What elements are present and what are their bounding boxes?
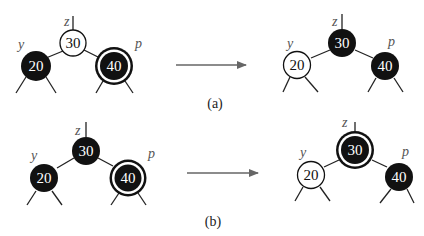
node-key: 30 [66, 35, 81, 51]
node-key: 30 [348, 142, 363, 158]
edge-z-p [355, 50, 373, 58]
subtree-edge [46, 77, 56, 93]
subtree-edge [52, 191, 62, 205]
node-label-z: z [63, 14, 70, 29]
subtree-edge [394, 78, 403, 92]
node-y: 20 [21, 51, 51, 81]
subtree-edge [96, 81, 103, 93]
subtree-edge [16, 77, 26, 93]
node-key: 20 [37, 170, 52, 186]
subtree-edge [320, 187, 330, 201]
node-label-p: p [147, 146, 155, 161]
node-label-z: z [331, 14, 338, 29]
node-p-double-black: 40 [95, 47, 133, 85]
node-y: 20 [30, 164, 58, 192]
node-z: 30 [328, 29, 356, 57]
node-key: 20 [290, 57, 305, 73]
panel-b-before: 30 z 20 y 40 p [27, 122, 155, 205]
caption-b: (b) [205, 214, 222, 230]
subtree-edge [380, 189, 391, 203]
subtree-edge [111, 193, 119, 205]
edge-z-y [57, 158, 74, 168]
caption-a: (a) [207, 96, 223, 112]
node-key: 40 [107, 58, 122, 74]
node-z: 30 [72, 137, 100, 165]
node-y: 20 [298, 162, 325, 189]
red-black-tree-diagram: 30 z 20 y 40 p (a) 30 z [0, 0, 424, 236]
node-label-p: p [134, 36, 142, 51]
node-p-double-black: 40 [110, 160, 147, 197]
node-label-y: y [285, 36, 294, 51]
node-key: 20 [29, 58, 44, 74]
edge-z-y [311, 50, 330, 58]
edge-z-p [372, 160, 387, 167]
node-z: 30 [60, 30, 86, 56]
node-label-z: z [341, 115, 348, 130]
subtree-edge [138, 193, 146, 205]
subtree-edge [27, 191, 36, 205]
node-key: 40 [392, 169, 407, 185]
subtree-edge [125, 81, 133, 93]
edge-z-p [84, 50, 98, 57]
panel-a-before: 30 z 20 y 40 p [16, 14, 142, 93]
node-label-z: z [74, 123, 81, 138]
node-z-double-black: 30 [336, 131, 374, 169]
node-key: 30 [79, 143, 94, 159]
edge-z-y [324, 160, 339, 167]
subtree-edge [368, 78, 376, 92]
panel-a-after: 30 z 20 y 40 p [283, 14, 403, 92]
panel-b-after: 30 z 20 y 40 p [295, 115, 414, 203]
node-label-y: y [298, 145, 307, 160]
node-p: 40 [385, 163, 413, 191]
node-label-y: y [29, 148, 38, 163]
subtree-edge [305, 77, 318, 92]
subtree-edge [295, 187, 303, 201]
node-key: 40 [121, 170, 136, 186]
edge-z-p [98, 158, 113, 166]
node-label-p: p [387, 34, 395, 49]
node-label-p: p [401, 144, 409, 159]
node-key: 30 [335, 35, 350, 51]
edge-z-y [46, 51, 63, 58]
node-key: 40 [378, 58, 393, 74]
subtree-edge [407, 189, 414, 203]
subtree-edge [283, 77, 290, 92]
node-p: 40 [371, 52, 399, 80]
node-key: 20 [304, 167, 319, 183]
node-y: 20 [284, 52, 311, 79]
node-label-y: y [16, 37, 25, 52]
